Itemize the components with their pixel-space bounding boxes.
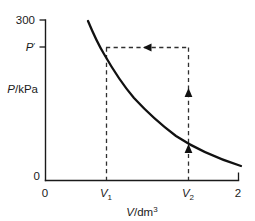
isobaric-path-arrow-left — [143, 44, 152, 52]
axes-group — [46, 20, 239, 181]
annotations-group — [106, 44, 192, 180]
x-axis-title-unit: /dm — [134, 206, 153, 218]
v2-compression-arrow-upper — [185, 88, 193, 97]
x-axis-title-exponent: 3 — [153, 205, 158, 214]
y-tick-label-0: 0 — [34, 170, 40, 182]
x-tick-label-v2: V2 — [182, 187, 195, 202]
y-tick-label-300: 300 — [16, 14, 35, 26]
chart-canvas: 300 P′ 0 P/kPa 0 V1 V2 2 V/dm3 — [0, 0, 255, 221]
y-axis-ticks — [40, 20, 46, 47]
y-axis-title-unit: /kPa — [15, 83, 39, 95]
y-axis-title: P/kPa — [7, 83, 38, 95]
x-tick-label-0: 0 — [42, 187, 48, 199]
pressure-volume-isotherm-figure: 300 P′ 0 P/kPa 0 V1 V2 2 V/dm3 — [0, 0, 255, 221]
y-tick-label-p-prime-mark: ′ — [34, 41, 36, 50]
isotherm-curve — [88, 21, 241, 166]
x-axis-title: V/dm3 — [126, 205, 158, 218]
x-tick-label-v1: V1 — [100, 187, 113, 202]
x-tick-label-v1-subscript: 1 — [108, 193, 113, 202]
x-tick-label-2: 2 — [235, 187, 241, 199]
y-tick-label-p-prime: P′ — [26, 41, 36, 53]
x-tick-label-v2-subscript: 2 — [190, 193, 195, 202]
